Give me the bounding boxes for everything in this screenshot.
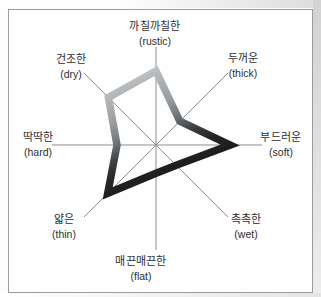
axis-label-wet-en: (wet) (231, 227, 262, 242)
axis-label-hard-en: (hard) (23, 145, 54, 160)
figure-page: 까칠까칠한 (rustic) 두꺼운 (thick) 부드러운 (soft) 촉… (0, 0, 321, 297)
axis-label-thick: 두꺼운 (thick) (228, 51, 259, 80)
axis-label-dry-ko: 건조한 (56, 52, 87, 67)
axis-label-hard: 딱딱한 (hard) (23, 130, 54, 159)
axis-label-thick-en: (thick) (228, 66, 259, 81)
axis-label-hard-ko: 딱딱한 (23, 130, 54, 145)
axis-label-soft-ko: 부드러운 (260, 130, 301, 145)
axis-line-dry (84, 73, 156, 145)
axis-label-thin: 얇은 (thin) (52, 212, 76, 241)
axis-label-rustic-ko: 까칠까칠한 (129, 19, 181, 34)
axis-label-flat-en: (flat) (115, 269, 167, 284)
axis-label-thick-ko: 두꺼운 (228, 51, 259, 66)
axis-label-dry-en: (dry) (56, 67, 87, 82)
axis-label-rustic: 까칠까칠한 (rustic) (129, 19, 181, 48)
axis-label-dry: 건조한 (dry) (56, 52, 87, 81)
axis-label-wet: 촉촉한 (wet) (231, 212, 262, 241)
axis-label-flat-ko: 매끈매끈한 (115, 254, 167, 269)
axis-label-soft: 부드러운 (soft) (260, 130, 301, 159)
axis-label-wet-ko: 촉촉한 (231, 212, 262, 227)
axis-label-rustic-en: (rustic) (129, 34, 181, 49)
axis-label-flat: 매끈매끈한 (flat) (115, 254, 167, 283)
axis-line-thick (156, 73, 228, 145)
axis-label-thin-ko: 얇은 (52, 212, 76, 227)
axis-label-thin-en: (thin) (52, 227, 76, 242)
axis-label-soft-en: (soft) (260, 145, 301, 160)
